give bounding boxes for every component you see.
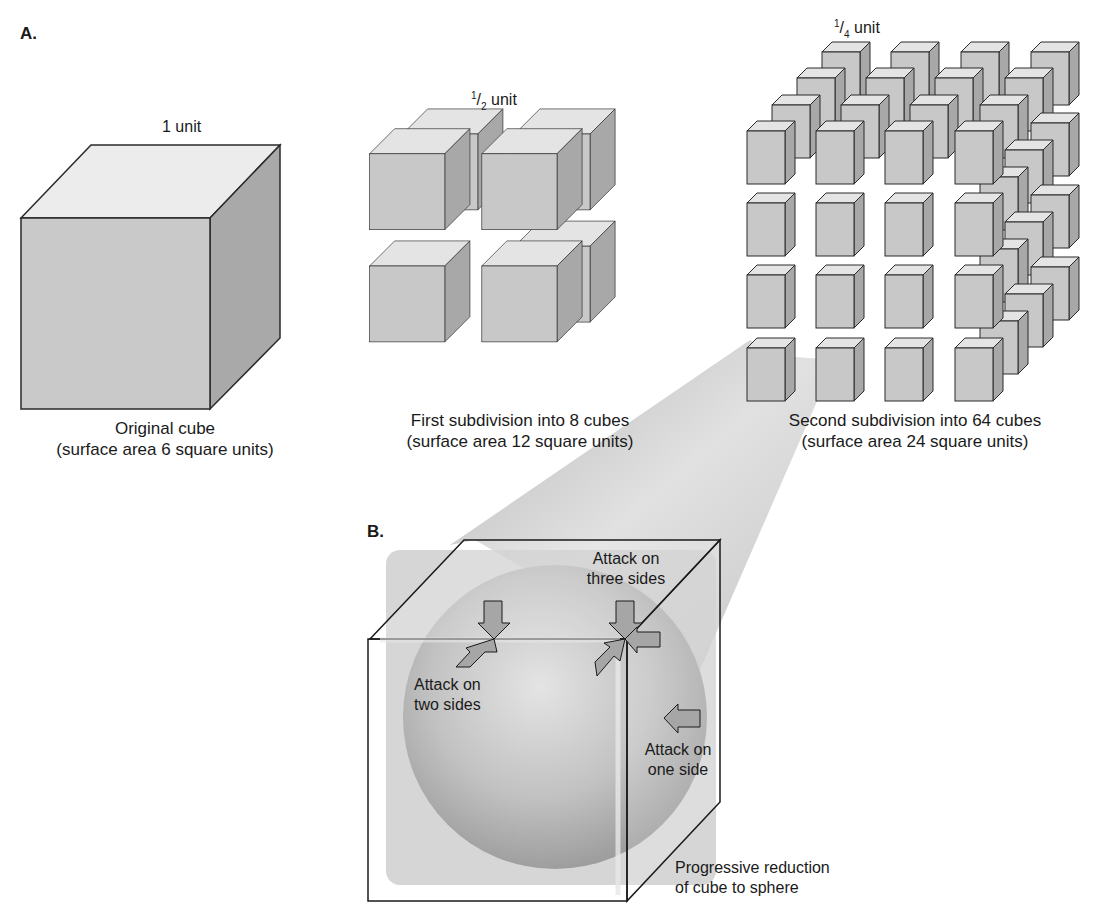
callout-line: Attack on xyxy=(628,740,728,760)
front-row-4 xyxy=(747,338,1003,401)
callout-line: two sides xyxy=(414,695,481,715)
caption-line: Progressive reduction xyxy=(675,858,830,878)
second-subdivision-caption: Second subdivision into 64 cubes (surfac… xyxy=(745,410,1085,452)
unit-numerator: 1 xyxy=(471,90,477,101)
front-row-3 xyxy=(747,265,1003,328)
panel-a-label: A. xyxy=(20,24,37,44)
sixty-four-cube-block xyxy=(747,42,1079,401)
callout-three-sides: Attack on three sides xyxy=(566,549,686,589)
callout-two-sides: Attack on two sides xyxy=(414,675,481,715)
panel-b-caption: Progressive reduction of cube to sphere xyxy=(675,858,830,898)
caption-line: (surface area 12 square units) xyxy=(360,431,680,452)
caption-line: Original cube xyxy=(0,418,330,439)
front-row-2 xyxy=(747,193,1003,256)
caption-line: (surface area 24 square units) xyxy=(745,431,1085,452)
original-unit-label: 1 unit xyxy=(162,118,201,136)
callout-line: Attack on xyxy=(414,675,481,695)
caption-line: of cube to sphere xyxy=(675,878,830,898)
caption-line: First subdivision into 8 cubes xyxy=(360,410,680,431)
original-cube xyxy=(21,145,280,409)
unit-suffix: unit xyxy=(850,19,880,36)
unit-numerator: 1 xyxy=(834,18,840,29)
caption-line: Second subdivision into 64 cubes xyxy=(745,410,1085,431)
callout-line: one side xyxy=(628,760,728,780)
callout-line: three sides xyxy=(566,569,686,589)
unit-suffix: unit xyxy=(487,91,517,108)
quarter-unit-label: 1/4 unit xyxy=(834,18,880,40)
cube-to-sphere xyxy=(368,540,720,901)
half-unit-label: 1/2 unit xyxy=(471,90,517,112)
caption-line: (surface area 6 square units) xyxy=(0,439,330,460)
panel-b-label: B. xyxy=(367,522,384,542)
callout-one-side: Attack on one side xyxy=(628,740,728,780)
original-cube-caption: Original cube (surface area 6 square uni… xyxy=(0,418,330,460)
eight-cube-block xyxy=(370,109,616,342)
first-subdivision-caption: First subdivision into 8 cubes (surface … xyxy=(360,410,680,452)
callout-line: Attack on xyxy=(566,549,686,569)
